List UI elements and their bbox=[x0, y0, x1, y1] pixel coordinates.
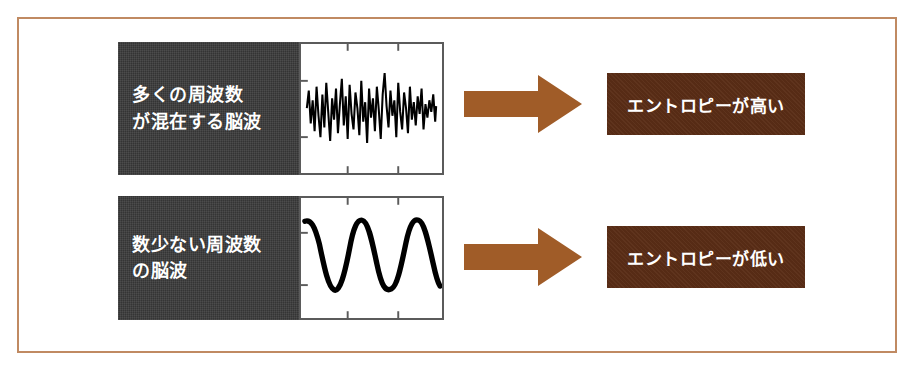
flow-arrow-low-entropy bbox=[464, 226, 582, 288]
waveform-label-panel: 多くの周波数 が混在する脳波 bbox=[118, 42, 304, 175]
waveform-plot-noisy bbox=[299, 42, 444, 175]
result-badge-text: エントロピーが低い bbox=[627, 245, 785, 270]
result-badge-high-entropy: エントロピーが高い bbox=[607, 73, 805, 135]
waveform-plot-sine bbox=[299, 196, 444, 320]
waveform-label-text: 数少ない周波数 の脳波 bbox=[132, 232, 262, 284]
waveform-label-text: 多くの周波数 が混在する脳波 bbox=[132, 82, 262, 134]
result-badge-text: エントロピーが高い bbox=[627, 92, 785, 117]
waveform-label-panel: 数少ない周波数 の脳波 bbox=[118, 196, 304, 320]
flow-arrow-high-entropy bbox=[464, 73, 582, 135]
figure-root: 多くの周波数 が混在する脳波 bbox=[0, 0, 918, 372]
result-badge-low-entropy: エントロピーが低い bbox=[607, 226, 805, 288]
